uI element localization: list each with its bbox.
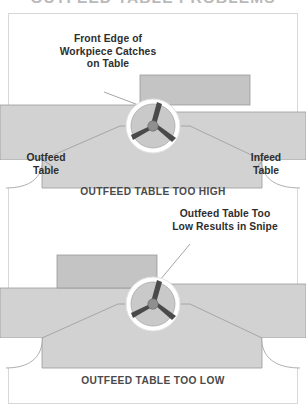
outfeed-label-line-1: Outfeed [14,152,78,165]
callout-line-3: on Table [38,58,178,71]
cutterhead-bottom [126,277,180,331]
cutterhead-hub-bottom [148,299,158,309]
base-fillet-right-bottom [262,338,306,368]
infeed-label-line-2: Table [236,165,296,178]
callout-workpiece-catches: Front Edge of Workpiece Catches on Table [38,33,178,71]
base-fillet-left-bottom [0,338,42,368]
callout-line-2: Workpiece Catches [38,46,178,59]
cutterhead-hub-top [148,121,158,131]
cutterhead-top [126,99,180,153]
callout-leader-line-top [104,92,141,106]
outfeed-table-problems-figure: OUTFEED TABLE PROBLEMS [0,0,306,411]
snipe-callout-line-1: Outfeed Table Too [150,208,300,221]
label-infeed-table: Infeed Table [236,152,296,177]
infeed-label-line-1: Infeed [236,152,296,165]
label-outfeed-table: Outfeed Table [14,152,78,177]
snipe-callout-line-2: Low Results in Snipe [150,221,300,234]
caption-outfeed-too-low: OUTFEED TABLE TOO LOW [0,375,306,386]
outfeed-label-line-2: Table [14,165,78,178]
callout-snipe: Outfeed Table Too Low Results in Snipe [150,208,300,233]
figure-title: OUTFEED TABLE PROBLEMS [0,0,306,9]
caption-outfeed-too-high: OUTFEED TABLE TOO HIGH [0,186,306,197]
callout-line-1: Front Edge of [38,33,178,46]
